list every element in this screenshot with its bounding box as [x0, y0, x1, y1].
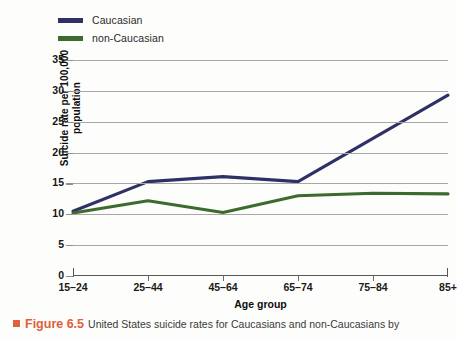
y-tick-35 — [66, 60, 73, 61]
caption-square-icon — [13, 320, 20, 327]
x-tick-label-5: 85+ — [439, 281, 457, 293]
y-tick-label-30: 30 — [42, 84, 64, 96]
y-tick-label-5: 5 — [42, 238, 64, 250]
y-tick-label-35: 35 — [42, 53, 64, 65]
x-tick-labels: 15–2425–4445–6465–7475–8485+ — [73, 281, 448, 297]
x-axis-title: Age group — [73, 298, 448, 310]
gridline-5 — [73, 245, 448, 246]
gridline-35 — [73, 60, 448, 61]
data-series-layer — [73, 60, 448, 276]
x-axis-line — [73, 275, 448, 276]
gridline-20 — [73, 153, 448, 154]
y-tick-30 — [66, 91, 73, 92]
x-tick-label-3: 65–74 — [283, 281, 312, 293]
y-tick-5 — [66, 245, 73, 246]
y-tick-20 — [66, 153, 73, 154]
series-line-non-caucasian — [73, 193, 448, 213]
x-tick-label-4: 75–84 — [358, 281, 387, 293]
legend-label-non-caucasian: non-Caucasian — [92, 33, 164, 44]
figure-caption: Figure 6.5United States suicide rates fo… — [13, 317, 453, 331]
y-tick-10 — [66, 214, 73, 215]
y-tick-0 — [66, 276, 73, 277]
y-tick-label-25: 25 — [42, 115, 64, 127]
y-tick-label-10: 10 — [42, 207, 64, 219]
y-tick-15 — [66, 183, 73, 184]
x-tick-label-0: 15–24 — [58, 281, 87, 293]
legend-label-caucasian: Caucasian — [92, 15, 143, 26]
y-tick-label-15: 15 — [42, 176, 64, 188]
y-tick-25 — [66, 122, 73, 123]
legend-item-caucasian: Caucasian — [58, 14, 164, 27]
caption-body-text: United States suicide rates for Caucasia… — [88, 318, 399, 330]
y-tick-label-0: 0 — [42, 269, 64, 281]
gridline-10 — [73, 214, 448, 215]
gridline-30 — [73, 91, 448, 92]
y-tick-label-20: 20 — [42, 146, 64, 158]
plot-area — [73, 60, 448, 276]
gridline-25 — [73, 122, 448, 123]
caption-figure-number: Figure 6.5 — [25, 317, 84, 331]
x-tick-label-1: 25–44 — [133, 281, 162, 293]
x-tick-label-2: 45–64 — [208, 281, 237, 293]
figure-container: Caucasian non-Caucasian Suicide rate per… — [0, 0, 457, 338]
gridline-15 — [73, 183, 448, 184]
y-axis-right-cap — [447, 268, 448, 277]
